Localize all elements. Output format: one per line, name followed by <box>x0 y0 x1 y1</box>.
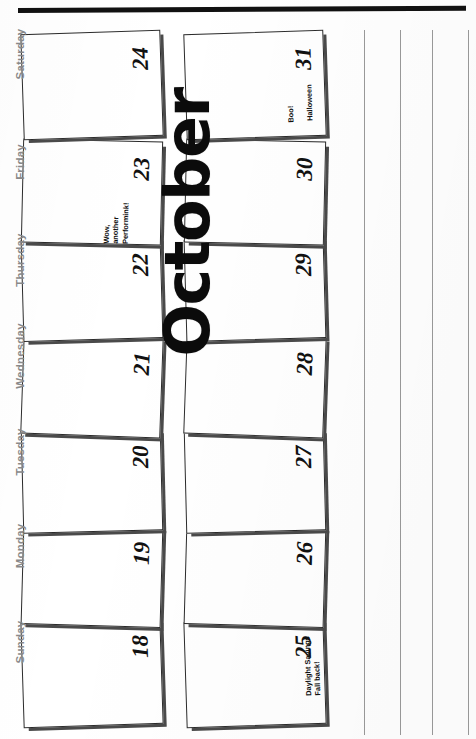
calendar-day-cell-20[interactable]: 20 <box>21 428 163 533</box>
weekday-label-thursday: Thursday <box>14 214 26 306</box>
day-number: 29 <box>291 253 318 277</box>
weekday-label-saturday: Saturday <box>14 8 26 100</box>
day-number: 28 <box>292 352 319 376</box>
day-number: 20 <box>128 445 155 469</box>
day-note: Boo! <box>285 82 296 122</box>
month-title: October <box>151 13 224 433</box>
calendar-day-cell-27[interactable]: 27 <box>184 428 326 533</box>
calendar-day-cell-22[interactable]: 22 <box>21 236 164 342</box>
calendar-day-cell-19[interactable]: 19 <box>21 522 164 628</box>
rule-line-1 <box>364 30 365 735</box>
day-note-secondary: Halloween <box>304 63 315 121</box>
weekday-label-wednesday: Wednesday <box>14 310 26 402</box>
calendar-day-cell-25[interactable]: 25Daylight Savings Fall back! <box>183 618 326 728</box>
day-number: 26 <box>292 542 319 566</box>
day-note: Wow, another Performink! <box>102 183 132 244</box>
weekday-label-sunday: Sunday <box>14 596 26 688</box>
weekday-label-monday: Monday <box>14 500 26 592</box>
weekday-label-friday: Friday <box>14 116 26 208</box>
day-number: 19 <box>129 542 156 566</box>
rule-line-3 <box>432 30 433 735</box>
day-number: 18 <box>127 635 154 659</box>
day-number: 30 <box>292 157 319 181</box>
weekday-label-tuesday: Tuesday <box>14 406 26 498</box>
calendar-day-cell-18[interactable]: 18 <box>20 618 163 728</box>
rule-line-2 <box>400 30 401 735</box>
calendar-day-cell-23[interactable]: 23Wow, another Performink! <box>21 138 163 245</box>
page-binding-bar <box>18 6 466 13</box>
rule-line-4 <box>468 30 469 735</box>
calendar-page: SundayMondayTuesdayWednesdayThursdayFrid… <box>0 0 476 739</box>
calendar-day-cell-24[interactable]: 24 <box>20 30 163 141</box>
calendar-day-cell-26[interactable]: 26 <box>184 522 327 628</box>
calendar-day-cell-21[interactable]: 21 <box>20 332 163 439</box>
day-note: Daylight Savings Fall back! <box>302 633 323 696</box>
day-number: 27 <box>291 445 318 469</box>
